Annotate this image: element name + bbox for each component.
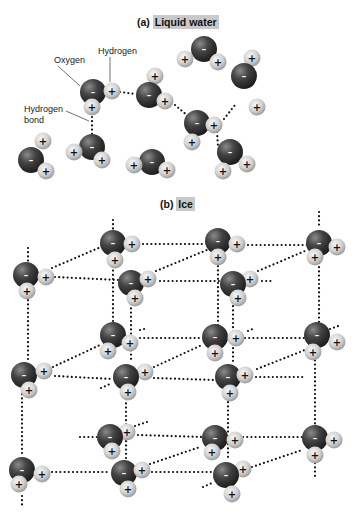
hydrogen-atom: + (34, 466, 51, 483)
positive-charge-icon: + (330, 435, 338, 446)
negative-charge-icon: – (202, 44, 207, 54)
positive-charge-icon: + (239, 464, 247, 475)
negative-charge-icon: – (313, 433, 318, 443)
hydrogen-atom: + (36, 363, 53, 380)
negative-charge-icon: – (91, 87, 96, 97)
water-molecule: –++ (306, 230, 346, 266)
oxygen-atom: – (213, 462, 239, 488)
hydrogen-atom: + (100, 343, 117, 360)
water-molecule-diagram: –+++–+–++–+++–+–+++–+–++–++–++–++–++–++–… (0, 0, 363, 523)
hydrogen-atom: + (137, 364, 154, 381)
positive-charge-icon: + (15, 479, 23, 490)
positive-charge-icon: + (214, 252, 222, 263)
negative-charge-icon: – (150, 157, 155, 167)
hydrogen-bond (156, 250, 207, 271)
oxygen-atom: – (304, 322, 330, 348)
positive-charge-icon: + (104, 346, 112, 357)
hydrogen-atom: + (107, 252, 124, 269)
water-molecule: +–+ (231, 50, 266, 116)
negative-charge-icon: – (124, 372, 129, 382)
hydrogen-bond (135, 422, 147, 426)
hydrogen-atom: + (307, 447, 324, 464)
hydrogen-atom: + (249, 99, 266, 116)
positive-charge-icon: + (248, 53, 256, 64)
water-molecule: –++ (9, 457, 51, 493)
positive-charge-icon: + (333, 242, 341, 253)
positive-charge-icon: + (141, 367, 149, 378)
water-molecule: –++ (13, 262, 55, 300)
hydrogen-atom: + (140, 271, 157, 288)
hydrogen-atom: + (134, 462, 151, 479)
hydrogen-bond (224, 105, 235, 119)
hydrogen-bond (140, 328, 148, 330)
positive-charge-icon: + (210, 120, 218, 131)
negative-charge-icon: – (111, 238, 116, 248)
negative-charge-icon: – (108, 432, 113, 442)
negative-charge-icon: – (242, 71, 247, 81)
negative-charge-icon: – (228, 147, 233, 157)
hydrogen-bond (55, 277, 118, 280)
hydrogen-bond (252, 450, 302, 467)
water-molecule: –++ (126, 149, 176, 179)
positive-charge-icon: + (108, 86, 116, 97)
negative-charge-icon: – (24, 270, 29, 280)
hydrogen-atom: + (237, 367, 254, 384)
positive-charge-icon: + (124, 387, 132, 398)
positive-charge-icon: + (234, 293, 242, 304)
hydrogen-atom: + (104, 443, 121, 460)
positive-charge-icon: + (38, 469, 46, 480)
water-molecule: –++ (304, 322, 346, 361)
positive-charge-icon: + (233, 239, 241, 250)
hydrogen-atom: + (38, 163, 55, 180)
negative-charge-icon: – (111, 330, 116, 340)
positive-charge-icon: + (219, 166, 227, 177)
water-molecule: –++ (100, 322, 139, 360)
water-molecule: –++ (215, 364, 254, 402)
oxygen-atom: – (231, 63, 257, 89)
hydrogen-atom: + (207, 345, 224, 362)
positive-charge-icon: + (40, 366, 48, 377)
hydrogen-atom: + (215, 163, 232, 180)
water-molecule: –++ (11, 362, 53, 399)
negative-charge-icon: – (213, 332, 218, 342)
hydrogen-bond (52, 247, 101, 268)
negative-charge-icon: – (216, 236, 221, 246)
hydrogen-atom: + (229, 236, 246, 253)
negative-charge-icon: – (29, 155, 34, 165)
hydrogen-bond (217, 132, 218, 146)
water-molecule: –++ (66, 134, 111, 169)
positive-charge-icon: + (126, 338, 134, 349)
positive-charge-icon: + (161, 96, 169, 107)
hydrogen-atom: + (222, 385, 239, 402)
positive-charge-icon: + (211, 348, 219, 359)
positive-charge-icon: + (188, 137, 196, 148)
hydrogen-atom: + (157, 93, 174, 110)
oxygen-leader-line (58, 66, 80, 86)
hydrogen-atom: + (210, 249, 227, 266)
hydrogen-atom: + (120, 481, 137, 498)
negative-charge-icon: – (231, 279, 236, 289)
hydrogen-bond (258, 251, 305, 271)
positive-charge-icon: + (311, 252, 319, 263)
hydrogen-atom: + (126, 157, 143, 174)
hydrogen-bond (150, 447, 200, 464)
hydrogen-bond (120, 92, 136, 94)
negative-charge-icon: – (317, 238, 322, 248)
hydrogen-atom: + (120, 384, 137, 401)
hydrogen-atom: + (210, 54, 227, 71)
hydrogen-atom: + (124, 236, 141, 253)
positive-charge-icon: + (42, 166, 50, 177)
negative-charge-icon: – (226, 372, 231, 382)
negative-charge-icon: – (22, 370, 27, 380)
positive-charge-icon: + (130, 160, 138, 171)
hydrogen-atom: + (19, 283, 36, 300)
positive-charge-icon: + (226, 388, 234, 399)
hydrogen-atom: + (206, 117, 223, 134)
water-molecule: +–+ (113, 364, 154, 401)
negative-charge-icon: – (213, 433, 218, 443)
hydrogen-atom: + (326, 432, 343, 449)
positive-charge-icon: + (39, 136, 47, 147)
hydrogen-atom: + (66, 144, 83, 161)
positive-charge-icon: + (111, 255, 119, 266)
hydrogen-bond (248, 328, 255, 331)
